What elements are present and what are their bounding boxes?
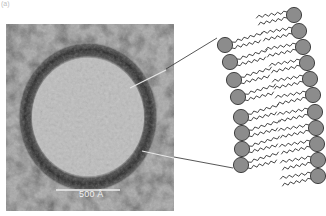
lipid-head: [299, 55, 314, 70]
lipid-head: [291, 23, 306, 38]
lipid-head: [234, 141, 249, 156]
lipid-head: [233, 109, 248, 124]
lipid-head: [295, 39, 310, 54]
lipid-tail: [279, 140, 310, 147]
lipid-tail: [249, 136, 280, 147]
lipid-tail: [277, 97, 306, 105]
lipid-tail: [258, 17, 287, 25]
lipid-tail: [272, 75, 303, 82]
lipid-tail: [280, 156, 311, 163]
lipid-head: [307, 104, 322, 119]
lipid-tail: [279, 114, 308, 122]
lipid-head: [302, 71, 317, 86]
lipid-tail: [274, 81, 303, 89]
lipid-head: [286, 7, 301, 22]
lipid-tail: [248, 104, 279, 115]
lipid-tail: [271, 65, 300, 73]
lipid-tail: [282, 178, 311, 186]
lipid-tail: [237, 49, 268, 60]
lipid-tail: [269, 59, 300, 66]
lipid-head: [305, 87, 320, 102]
lipid-head: [310, 152, 325, 167]
lipid-tail: [280, 172, 311, 179]
lipid-tail: [277, 108, 308, 115]
lipid-head: [310, 168, 325, 183]
lipid-tail: [278, 124, 309, 131]
lipid-tail: [256, 11, 287, 18]
lipid-tail: [282, 162, 311, 170]
lipid-tail: [241, 67, 272, 78]
lipid-head: [222, 54, 237, 69]
lipid-tail: [275, 91, 306, 98]
lipid-head: [230, 89, 245, 104]
lipid-tail: [249, 120, 280, 131]
lipid-head: [234, 125, 249, 140]
lipid-tail: [267, 49, 296, 57]
lipid-bilayer-diagram: [0, 0, 326, 216]
lipid-head: [308, 120, 323, 135]
lipid-tail: [263, 33, 292, 41]
lipid-tail: [280, 130, 309, 138]
lipid-tail: [281, 146, 310, 154]
lipid-head: [217, 37, 232, 52]
lipid-tail: [261, 27, 292, 34]
lipid-tail: [265, 43, 296, 50]
lipid-tail: [232, 32, 263, 43]
lipid-head: [226, 72, 241, 87]
connector-lines: [166, 38, 233, 168]
lipid-head: [233, 157, 248, 172]
lipid-tail: [245, 84, 276, 95]
lipid-tail: [248, 152, 279, 163]
lipid-head: [309, 136, 324, 151]
